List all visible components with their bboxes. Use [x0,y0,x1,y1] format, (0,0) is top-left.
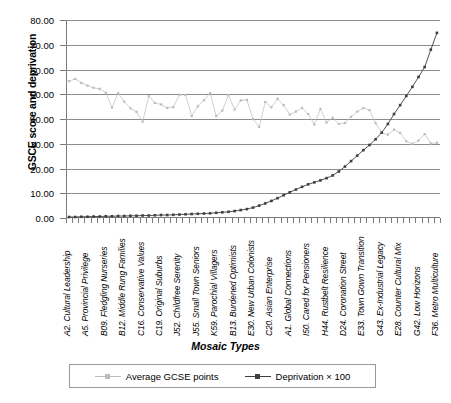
x-axis-tick-mark [103,218,104,223]
data-point [105,92,107,94]
data-point [227,94,229,96]
data-point [191,115,193,117]
data-point [270,200,273,203]
data-point [276,98,278,100]
data-point [258,204,261,207]
legend-marker-deprivation [245,372,271,381]
x-axis-tick-mark [385,218,386,223]
data-point [368,109,370,111]
data-point [350,160,353,163]
data-point [423,66,426,69]
data-point [142,121,144,123]
data-point [375,122,377,124]
x-axis-tick-mark [348,218,349,223]
data-point [99,88,101,90]
data-point [123,215,126,218]
x-axis-tick-mark [379,218,380,223]
x-axis-tick-mark [268,218,269,223]
x-axis-category-label: B09. Fledgling Nurseries [99,247,109,336]
x-axis-tick-mark [115,218,116,223]
data-point [111,107,113,109]
x-axis-tick-mark [133,218,134,223]
data-point [270,106,272,108]
data-point [197,212,200,215]
data-point [258,126,260,128]
data-point [368,144,371,147]
data-point [172,213,175,216]
legend-item-gcse[interactable]: Average GCSE points [95,371,219,382]
x-axis-tick-mark [293,218,294,223]
x-axis-category-label: A1. Global Connections [283,250,293,336]
data-point [184,94,186,96]
data-point [276,197,279,200]
data-point [387,133,389,135]
data-point [393,129,395,131]
data-point [313,123,315,125]
x-axis-title: Mosaic Types [0,340,451,352]
data-point [147,214,150,217]
x-axis-category-label: I50. Cared for Pensioners [301,243,311,336]
x-axis-tick-mark [66,218,67,223]
data-point [203,212,206,215]
y-axis-tick-labels: 80.0070.0060.0050.0040.0030.0020.0010.00… [0,20,62,218]
x-axis-category-label: K59. Parochial Villagers [209,250,219,336]
data-point [239,209,242,212]
data-point [295,110,297,112]
x-axis-tick-mark [360,218,361,223]
data-point [399,132,401,134]
data-point [135,214,138,217]
data-point [417,76,420,79]
chart-legend: Average GCSE points Deprivation × 100 [69,364,376,388]
x-axis-category-labels: A2. Cultural LeadershipA5. Provincial Pr… [0,224,451,336]
x-axis-category-label: G43. Ex-Industrial Legacy [375,242,385,336]
x-axis-category-label: J55. Small Town Seniors [191,246,201,336]
data-point [295,188,298,191]
x-axis-category-label: B13. Burdened Optimists [228,245,238,336]
x-axis-tick-mark [409,218,410,223]
data-point [252,206,255,209]
data-point [307,183,310,186]
plot-area [66,20,440,218]
legend-item-deprivation[interactable]: Deprivation × 100 [245,371,351,382]
data-point [141,214,144,217]
data-point [68,80,70,82]
x-axis-tick-mark [299,218,300,223]
x-axis-category-label: F36. Metro Multiculture [430,253,440,336]
data-point [197,105,199,107]
data-point [123,101,125,103]
x-axis-tick-mark [397,218,398,223]
x-axis-tick-mark [238,218,239,223]
x-axis-tick-mark [121,218,122,223]
x-axis-tick-mark [324,218,325,223]
x-axis-tick-mark [305,218,306,223]
x-axis-tick-mark [146,218,147,223]
data-point [190,213,193,216]
data-point [92,87,94,89]
data-point [203,99,205,101]
x-axis-tick-mark [84,218,85,223]
x-axis-tick-mark [354,218,355,223]
data-point [430,142,432,144]
y-axis-tick-label: 20.00 [30,163,54,174]
data-point [411,86,414,89]
x-axis-tick-mark [342,218,343,223]
x-axis-category-label: B12. Middle Rung Families [117,238,127,336]
data-point [430,48,433,51]
x-axis-category-label: J52. Childfree Serenity [172,254,182,336]
data-point [264,202,267,205]
data-point [80,82,82,84]
x-axis-tick-mark [97,218,98,223]
data-point [233,210,236,213]
data-point [166,107,168,109]
x-axis-tick-mark [317,218,318,223]
x-axis-tick-mark [256,218,257,223]
x-axis-tick-mark [330,218,331,223]
data-point [209,92,211,94]
data-point [86,84,88,86]
x-axis-tick-mark [152,218,153,223]
legend-marker-gcse [95,372,121,381]
x-axis-category-label: D24. Coronation Street [338,253,348,336]
data-point [246,99,248,101]
y-axis-tick-label: 70.00 [30,39,54,50]
data-point [405,95,408,98]
